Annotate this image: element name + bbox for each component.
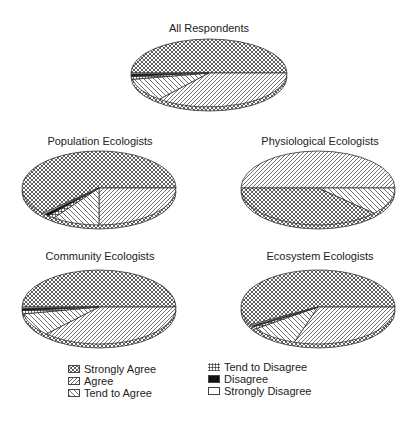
pie-chart-physiological-ecologists [241, 151, 395, 229]
pie-chart-all-respondents [131, 39, 287, 111]
pie-chart-population-ecologists [22, 151, 176, 229]
legend-item-tend-to-agree: Tend to Agree [68, 387, 156, 399]
legend-item-agree: Agree [68, 375, 156, 387]
legend-left: Strongly Agree Agree Tend to Agree [68, 363, 156, 399]
back-hatch-swatch-icon [68, 389, 80, 397]
legend-label: Tend to Disagree [224, 361, 307, 373]
legend-label: Agree [84, 375, 113, 387]
legend-item-disagree: Disagree [208, 373, 311, 385]
empty-swatch-icon [208, 387, 220, 395]
chart-title-ecosystem-ecologists: Ecosystem Ecologists [220, 250, 410, 262]
pie-slice-agree [99, 188, 176, 225]
chart-title-population-ecologists: Population Ecologists [0, 135, 200, 147]
legend-label: Strongly Agree [84, 363, 156, 375]
legend-right: Tend to Disagree Disagree Strongly Disag… [208, 361, 311, 397]
pie-chart-community-ecologists [22, 270, 176, 348]
crosshatch-swatch-icon [68, 365, 80, 373]
pie-slice-agree [241, 151, 395, 188]
solid-black-swatch-icon [208, 375, 220, 383]
pie-slice-strongly-agree [131, 39, 287, 73]
forward-hatch-swatch-icon [68, 377, 80, 385]
legend-item-strongly-disagree: Strongly Disagree [208, 385, 311, 397]
chart-title-physiological-ecologists: Physiological Ecologists [220, 135, 410, 147]
chart-title-all-respondents: All Respondents [109, 22, 309, 34]
chart-title-community-ecologists: Community Ecologists [0, 250, 200, 262]
legend-label: Disagree [224, 373, 268, 385]
pie-charts-canvas [0, 0, 410, 422]
pie-slice-strongly-agree [22, 270, 176, 307]
legend-label: Tend to Agree [84, 387, 152, 399]
legend-item-strongly-agree: Strongly Agree [68, 363, 156, 375]
grid-swatch-icon [208, 363, 220, 371]
pie-chart-ecosystem-ecologists [241, 270, 395, 348]
legend-label: Strongly Disagree [224, 385, 311, 397]
legend-item-tend-to-disagree: Tend to Disagree [208, 361, 311, 373]
